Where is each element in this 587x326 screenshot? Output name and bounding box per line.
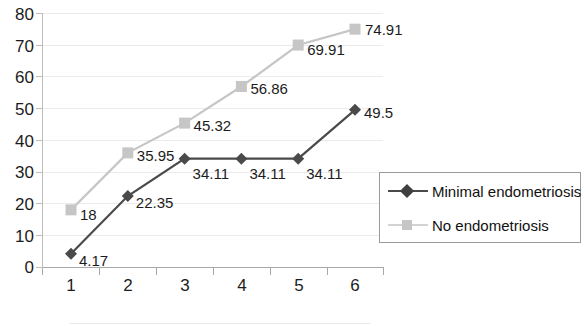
legend-label: No endometriosis [432,218,549,233]
square-marker-icon [402,220,412,230]
square-marker-icon [179,118,190,129]
square-marker-icon [350,24,361,35]
diamond-marker-icon [400,184,414,198]
series-layer [0,0,587,326]
square-marker-icon [122,147,133,158]
square-marker-icon [66,204,77,215]
data-point-label: 34.11 [306,166,342,181]
data-point-label: 22.35 [136,195,174,210]
legend: Minimal endometriosis No endometriosis [379,172,581,243]
legend-swatch-no-endometriosis [388,218,428,232]
square-marker-icon [236,81,247,92]
legend-item-minimal-endometriosis[interactable]: Minimal endometriosis [388,181,581,201]
clipped-axis-title-artifact [70,323,370,324]
data-point-label: 45.32 [194,118,232,133]
data-point-label: 34.11 [193,166,229,181]
data-point-label: 18 [80,207,97,222]
data-point-label: 34.11 [249,166,285,181]
data-point-label: 74.91 [365,22,403,37]
data-point-label: 69.91 [307,42,345,57]
diamond-marker-icon [235,153,247,165]
square-marker-icon [293,40,304,51]
legend-item-no-endometriosis[interactable]: No endometriosis [388,215,549,235]
data-point-label: 56.86 [250,81,288,96]
line-chart: 80 70 60 50 40 30 20 10 0 1 2 3 4 5 6 4.… [0,0,587,326]
data-point-label: 4.17 [79,253,108,268]
diamond-marker-icon [179,153,191,165]
legend-label: Minimal endometriosis [432,184,581,199]
data-point-label: 49.5 [364,105,393,120]
legend-swatch-minimal-endometriosis [388,184,428,198]
data-point-label: 35.95 [137,148,175,163]
